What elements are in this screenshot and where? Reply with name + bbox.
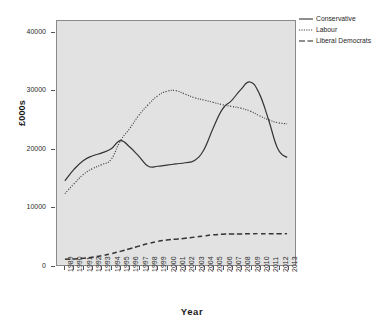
x-tick-mark: [64, 266, 65, 270]
y-tick-mark: [51, 266, 55, 267]
x-tick-mark: [167, 266, 168, 270]
y-tick-mark: [51, 149, 55, 150]
x-tick-mark: [176, 266, 177, 270]
x-tick-mark: [279, 266, 280, 270]
x-tick-mark: [157, 266, 158, 270]
series-line-labour: [65, 90, 287, 193]
legend-key-dotted-icon: [299, 26, 313, 34]
y-tick-label: 30000: [2, 86, 46, 93]
legend-item-conservative: Conservative: [299, 14, 384, 24]
x-tick-mark: [83, 266, 84, 270]
x-tick-mark: [269, 266, 270, 270]
x-tick-mark: [92, 266, 93, 270]
x-tick-mark: [73, 266, 74, 270]
legend-label-labour: Labour: [316, 26, 337, 34]
legend-label-conservative: Conservative: [316, 15, 356, 23]
series-lines: [57, 21, 295, 265]
plot-area: [56, 20, 296, 266]
legend-key-solid-icon: [299, 15, 313, 23]
y-tick-mark: [51, 207, 55, 208]
x-tick-mark: [129, 266, 130, 270]
x-tick-mark: [288, 266, 289, 270]
legend-key-dashed-icon: [299, 37, 313, 45]
x-tick-mark: [251, 266, 252, 270]
x-tick-mark: [111, 266, 112, 270]
x-axis-title: Year: [0, 306, 384, 317]
x-tick-mark: [204, 266, 205, 270]
x-tick-mark: [185, 266, 186, 270]
y-tick-label: 20000: [2, 145, 46, 152]
y-tick-label: 0: [2, 262, 46, 269]
legend-item-liberal-democrats: Liberal Democrats: [299, 36, 384, 46]
x-tick-mark: [232, 266, 233, 270]
x-tick-mark: [139, 266, 140, 270]
x-tick-mark: [213, 266, 214, 270]
x-tick-mark: [120, 266, 121, 270]
x-tick-mark: [195, 266, 196, 270]
y-tick-mark: [51, 90, 55, 91]
line-chart: £000s 010000200003000040000 198919901991…: [0, 0, 384, 329]
x-tick-mark: [241, 266, 242, 270]
x-tick-mark: [223, 266, 224, 270]
x-tick-label: 2013: [291, 256, 298, 272]
y-tick-label: 40000: [2, 28, 46, 35]
chart-legend: Conservative Labour Liberal Democrats: [299, 14, 384, 47]
x-tick-mark: [260, 266, 261, 270]
legend-item-labour: Labour: [299, 25, 384, 35]
legend-label-liberal-democrats: Liberal Democrats: [316, 37, 371, 45]
y-tick-label: 10000: [2, 203, 46, 210]
x-tick-mark: [101, 266, 102, 270]
y-tick-mark: [51, 32, 55, 33]
x-tick-mark: [148, 266, 149, 270]
